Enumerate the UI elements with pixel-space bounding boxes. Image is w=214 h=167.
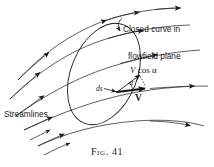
streamline-5 [38, 120, 204, 146]
figure-caption-prefix: Fig. [91, 146, 109, 157]
label-v-cos-alpha-symbol: α [152, 65, 157, 75]
label-closed-curve-line1: Closed curve in [123, 25, 181, 34]
figure-drawing-canvas [0, 0, 214, 167]
figure-caption: Fig. 41 [0, 146, 214, 157]
label-v-cos-alpha-cos: cos [136, 65, 153, 75]
label-arc-element-ds: ds [96, 85, 103, 93]
label-closed-curve-line2: flowfield plane [123, 52, 181, 61]
label-v-cos-alpha: V cos α [130, 65, 157, 75]
figure-container: Closed curve in flowfield plane Streamli… [0, 0, 214, 167]
label-velocity-vector: V [135, 93, 142, 104]
ds-pointer [104, 89, 116, 92]
label-angle-alpha: α [129, 79, 133, 88]
curve-point-marker [116, 91, 118, 93]
label-streamlines: Streamlines [4, 110, 48, 119]
figure-caption-number: 41 [112, 146, 123, 157]
